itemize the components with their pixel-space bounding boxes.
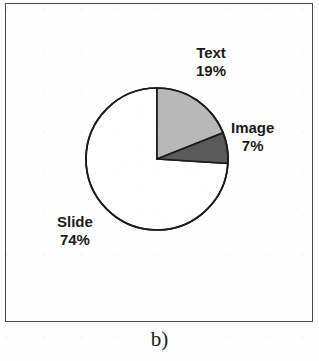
pie-label-text-name: Text (196, 44, 226, 61)
pie-label-slide-value: 74% (57, 231, 93, 249)
pie-label-image-name: Image (231, 119, 274, 136)
pie-chart: Text 19% Image 7% Slide 74% (0, 0, 319, 325)
pie-label-text-value: 19% (196, 62, 226, 80)
pie-chart-svg (0, 0, 319, 325)
pie-label-text: Text 19% (196, 44, 226, 80)
figure-panel: Text 19% Image 7% Slide 74% b) (0, 0, 319, 361)
pie-label-slide-name: Slide (57, 213, 93, 230)
pie-label-image: Image 7% (231, 119, 274, 155)
pie-label-slide: Slide 74% (57, 213, 93, 249)
pie-label-image-value: 7% (231, 137, 274, 155)
figure-caption: b) (0, 327, 319, 352)
